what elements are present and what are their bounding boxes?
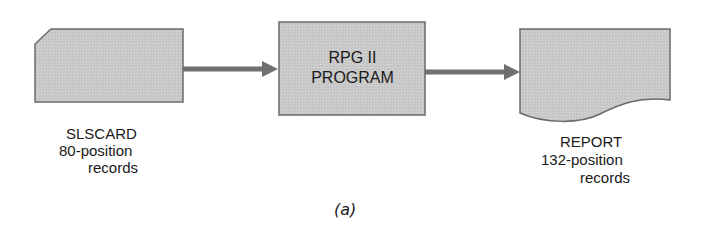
arrow-program-to-report (425, 64, 520, 80)
card-input-shape (35, 29, 183, 102)
report-label-line-3: records (580, 168, 630, 187)
arrow-card-to-program (183, 61, 278, 77)
program-label-line-2: PROGRAM (279, 68, 426, 88)
report-document-shape (520, 29, 670, 121)
report-label-line-2: 132-position (541, 150, 623, 169)
program-label-line-1: RPG II (279, 48, 426, 68)
slscard-label-line-3: records (88, 158, 138, 177)
program-box-label: RPG II PROGRAM (279, 48, 426, 88)
figure-caption: (a) (334, 200, 356, 219)
report-label-line-1: REPORT (560, 132, 622, 151)
